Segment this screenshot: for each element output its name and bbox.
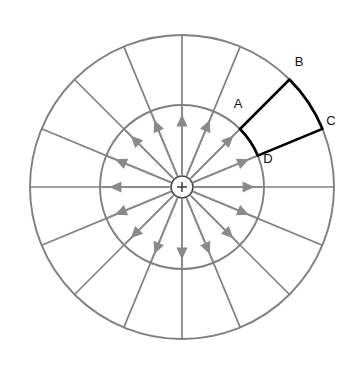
corner-label-c: C [326, 113, 335, 128]
figure-root: ABCD [0, 0, 354, 367]
corner-label-b: B [295, 54, 304, 69]
corner-label-d: D [263, 151, 272, 166]
radial-field-diagram: ABCD [0, 0, 354, 367]
field-arrow-head [243, 181, 255, 192]
field-arrow-head [176, 248, 187, 260]
corner-labels-group: ABCD [234, 54, 336, 166]
corner-label-a: A [234, 96, 243, 111]
field-arrow-head [176, 114, 187, 126]
highlighted-sector-outline [240, 80, 322, 156]
field-arrow-head [109, 181, 121, 192]
